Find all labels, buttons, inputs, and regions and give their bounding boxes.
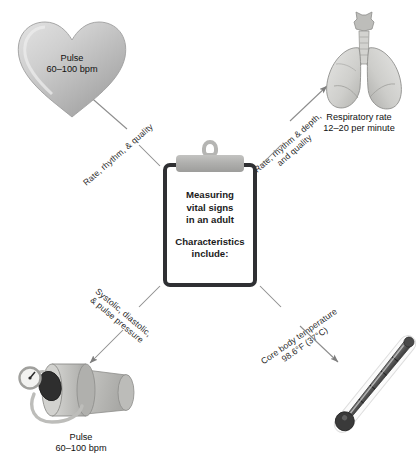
heart-icon: Pulse 60–100 bpm [14, 16, 130, 121]
heart-caption-line2: 60–100 bpm [46, 64, 97, 74]
vital-signs-diagram: Pulse 60–100 bpm [0, 0, 420, 469]
center-line-4: Characteristics [175, 236, 244, 247]
clipboard-text: Measuring vital signs in an adult Charac… [167, 189, 253, 261]
center-line-1: Measuring [186, 189, 234, 200]
clipboard-clip [176, 155, 244, 172]
heart-caption-line1: Pulse [61, 53, 84, 63]
clipboard-board: Measuring vital signs in an adult Charac… [163, 163, 257, 287]
center-line-2: vital signs [187, 202, 234, 213]
center-line-5: include: [192, 248, 229, 259]
lungs-icon [316, 8, 412, 116]
sphygmomanometer-icon [8, 352, 153, 432]
thermometer-icon [330, 318, 420, 450]
heart-caption: Pulse 60–100 bpm [14, 53, 130, 76]
center-line-3: in an adult [186, 214, 234, 225]
